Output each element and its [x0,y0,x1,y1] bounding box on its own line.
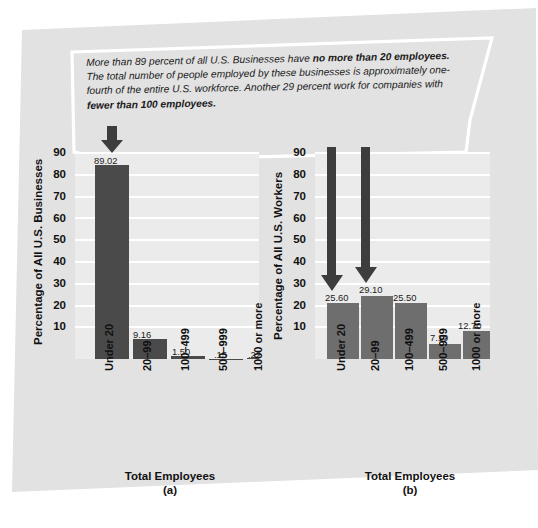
callout-seg-3: The total number of people employed by t… [86,64,450,96]
panel-caption-b: (b) [330,483,490,497]
xtick-b-4: 1000 or more [470,303,482,371]
xtick-b-2: 100–499 [403,328,415,371]
xtick-b-0: Under 20 [335,324,347,371]
callout-seg-1: More than 89 percent of all U.S. Busines… [86,53,313,68]
arrow-down-icon-a [100,126,124,154]
x-axis-title-b: Total Employees [330,469,490,483]
value-label-b-2: 25.50 [393,292,416,303]
arrow-down-icon-b-1 [320,147,344,292]
ytick-b-90: 90 [278,146,306,158]
value-label-a-0: 89.02 [94,155,117,166]
panel-caption-a: (a) [90,483,250,497]
xtick-a-3: 500–999 [217,328,229,371]
xtick-a-4: 1000 or more [252,303,264,371]
value-label-b-0: 25.60 [325,292,348,303]
xtick-b-1: 20–99 [369,340,381,371]
y-axis-label-b: Percentage of All U.S. Workers [272,172,284,340]
value-label-b-1: 29.10 [359,284,382,295]
ytick-a-90: 90 [38,146,66,158]
callout-seg-4: fewer than 100 employees. [87,97,216,110]
xtick-b-3: 500–999 [437,328,449,371]
arrow-down-icon-b-2 [354,147,378,284]
xtick-a-0: Under 20 [103,324,115,371]
y-axis-label-a: Percentage of All U.S. Businesses [32,159,44,345]
xtick-a-2: 100–499 [179,328,191,371]
figure-canvas: More than 89 percent of all U.S. Busines… [0,0,538,528]
x-axis-title-a: Total Employees [90,469,250,483]
value-label-a-1: 9.16 [133,329,151,340]
callout-seg-2: no more than 20 employees. [312,50,449,64]
xtick-a-1: 20–99 [141,340,153,371]
callout-text: More than 89 percent of all U.S. Busines… [86,49,463,113]
